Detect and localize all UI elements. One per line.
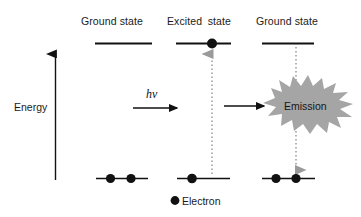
energy-level-diagram: Ground state Excited state Ground state … (0, 0, 361, 217)
column-label-ground-state-initial: Ground state (81, 15, 143, 27)
energy-axis-label: Energy (14, 101, 47, 113)
stage-ground-state-initial (95, 44, 152, 184)
stage-ground-state-final (262, 44, 353, 184)
electron-dot-icon (171, 196, 180, 205)
electron-dot (126, 174, 135, 183)
legend-label-electron: Electron (182, 195, 221, 207)
column-label-excited-state: Excited state (167, 15, 231, 27)
electron-dot (106, 174, 115, 183)
stage-excited-state (176, 39, 231, 184)
electron-dot (187, 174, 197, 184)
column-label-ground-state-final: Ground state (256, 15, 318, 27)
electron-dot (207, 39, 217, 49)
legend-electron-marker (171, 196, 180, 205)
photon-energy-label: hν (146, 87, 157, 102)
emission-burst-label: Emission (284, 100, 327, 112)
electron-dot (271, 174, 280, 183)
electron-dot (291, 174, 300, 183)
